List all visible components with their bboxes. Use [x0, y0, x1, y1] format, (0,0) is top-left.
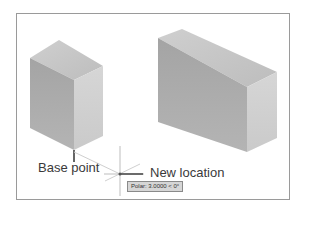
polar-tooltip: Polar: 3.0000 < 0° — [127, 181, 183, 192]
large-box-object[interactable] — [158, 29, 277, 152]
new-location-label: New location — [150, 165, 224, 180]
small-box-right-face — [74, 66, 103, 150]
polar-tracking-line — [105, 164, 140, 181]
small-box-object[interactable] — [30, 40, 103, 150]
base-point-label: Base point — [38, 160, 99, 175]
